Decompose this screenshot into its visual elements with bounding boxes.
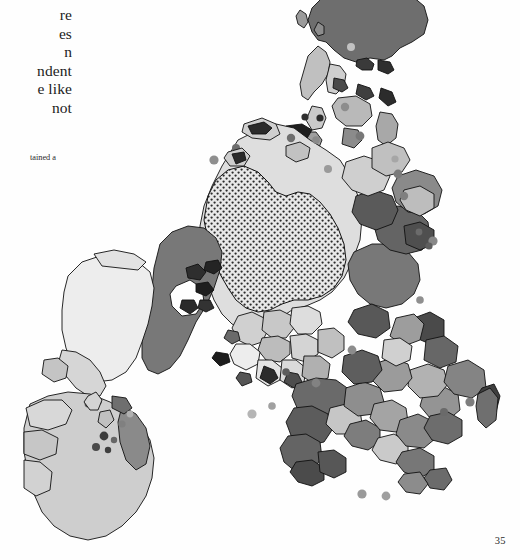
island-dot (287, 134, 295, 142)
island-dot (268, 402, 276, 410)
region-island-strip-c (356, 58, 374, 70)
region-mid-b (290, 306, 322, 334)
region-island-strip-a (296, 10, 308, 28)
island-dot (316, 114, 323, 121)
region-small-isle-a (224, 330, 240, 344)
body-text-line: re (0, 6, 72, 25)
region-small-isle-b (212, 352, 230, 366)
island-dot (348, 346, 357, 355)
island-dot (356, 132, 365, 141)
region-island-blob-i (376, 112, 398, 146)
scanned-page: re es n ndent e like not tained a 35 (0, 0, 520, 560)
island-dot (105, 447, 111, 453)
region-island-arc-upper (300, 46, 330, 100)
island-dot (394, 170, 403, 179)
page-number: 35 (495, 535, 506, 546)
island-dot (127, 411, 134, 418)
region-mid-c (258, 336, 290, 362)
island-dot (209, 155, 218, 164)
region-small-isle-c (236, 372, 252, 386)
island-dot (111, 437, 117, 443)
island-dot (282, 368, 290, 376)
body-text-line: not (0, 99, 72, 118)
island-dot (391, 155, 398, 162)
world-choropleth-map (0, 0, 520, 560)
region-mid-e (318, 328, 344, 358)
island-dot (425, 242, 432, 249)
map-svg (0, 0, 520, 560)
region-se-u (424, 336, 458, 368)
island-dot (416, 296, 424, 304)
body-text-line: ndent (0, 62, 72, 81)
body-text-column: re es n ndent e like not (0, 6, 72, 118)
island-dot (465, 397, 474, 406)
island-dot (440, 408, 448, 416)
island-dot (312, 136, 320, 144)
body-text-line: n (0, 43, 72, 62)
body-text-line: e like (0, 80, 72, 99)
island-dot (118, 420, 125, 427)
island-dot (92, 443, 100, 451)
island-dot (357, 489, 366, 498)
island-dot (100, 432, 109, 441)
region-island-strip-d (378, 60, 394, 74)
region-mid-a (262, 310, 294, 338)
region-mid-f (230, 344, 260, 370)
region-island-blob-h (332, 96, 372, 126)
body-text-line: es (0, 25, 72, 44)
island-dot (341, 103, 349, 111)
island-dot (382, 492, 391, 501)
island-dot (400, 192, 408, 200)
region-island-strip-g (379, 88, 396, 106)
island-dot (324, 165, 332, 173)
island-dot (247, 409, 256, 418)
region-east-light-b (372, 142, 410, 176)
island-dot (301, 113, 308, 120)
footnote-text: tained a (0, 152, 56, 163)
island-dot (347, 43, 355, 51)
region-offshore-long-island (476, 388, 498, 428)
island-dot (416, 229, 423, 236)
island-dot (312, 379, 321, 388)
region-se-x (348, 304, 390, 338)
